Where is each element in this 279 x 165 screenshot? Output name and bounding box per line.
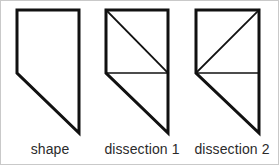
caption-dissection-2: dissection 2 bbox=[187, 141, 277, 157]
dissection-1-outline bbox=[106, 10, 168, 133]
caption-shape: shape bbox=[5, 141, 95, 157]
panel-shape bbox=[17, 10, 79, 133]
panel-dissection-2 bbox=[196, 10, 259, 133]
shape-outline bbox=[17, 10, 79, 133]
figure-container: shape dissection 1 dissection 2 bbox=[0, 0, 279, 165]
panel-dissection-1 bbox=[106, 10, 168, 133]
caption-dissection-1: dissection 1 bbox=[97, 141, 187, 157]
dissection-2-outline bbox=[196, 10, 259, 133]
